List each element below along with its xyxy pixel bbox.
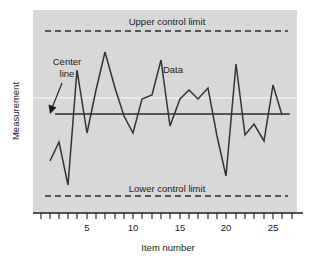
center-line-label-line2: line bbox=[60, 68, 75, 79]
control-chart-figure: 5 10 15 20 25 Item number Measurement Up… bbox=[0, 0, 317, 263]
x-tick-label-25: 25 bbox=[268, 222, 279, 233]
lower-control-limit-label: Lower control limit bbox=[129, 183, 206, 194]
x-axis-ticks bbox=[41, 213, 292, 219]
upper-control-limit-label: Upper control limit bbox=[129, 16, 206, 27]
x-tick-label-10: 10 bbox=[128, 222, 139, 233]
control-chart-svg: 5 10 15 20 25 Item number Measurement Up… bbox=[0, 0, 317, 263]
y-axis-title: Measurement bbox=[10, 82, 21, 140]
center-line-label-line1: Center bbox=[53, 56, 82, 67]
plot-area-background bbox=[33, 10, 297, 212]
data-label: Data bbox=[163, 64, 184, 75]
x-tick-label-5: 5 bbox=[84, 222, 89, 233]
x-axis-title: Item number bbox=[141, 242, 194, 253]
x-tick-label-20: 20 bbox=[221, 222, 232, 233]
x-tick-label-15: 15 bbox=[175, 222, 186, 233]
